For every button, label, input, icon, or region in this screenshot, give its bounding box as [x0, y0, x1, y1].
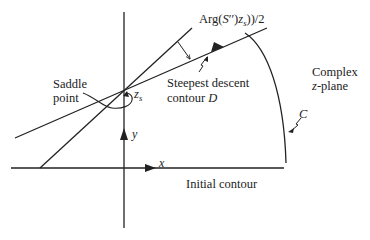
- contour-c-arrow-icon: [288, 128, 294, 133]
- saddle-label-line2: point: [53, 91, 79, 105]
- y-axis-label: y: [131, 127, 138, 141]
- steepest-label-line2: contour D: [167, 91, 217, 105]
- saddle-label-line1: Saddle: [53, 77, 87, 91]
- initial-contour-label: Initial contour: [186, 177, 258, 191]
- contour-diagram: Arg(S′′)zs))/2 Saddle point zs Steepest …: [0, 0, 370, 240]
- contour-c-label: C: [299, 107, 308, 121]
- steepest-descent-arrow-icon: [211, 42, 224, 52]
- contour-c-curve: [245, 33, 286, 163]
- y-axis-arrow-icon: [120, 128, 128, 140]
- complex-plane-label-line2: z-plane: [311, 79, 349, 93]
- steepest-label-line1: Steepest descent: [167, 76, 250, 90]
- arg-label: Arg(S′′)zs))/2: [199, 12, 265, 28]
- x-axis-arrow-icon: [145, 164, 156, 172]
- complex-plane-label-line1: Complex: [312, 65, 359, 79]
- steepest-pointer-arrow-icon: [204, 56, 208, 62]
- zs-label: zs: [133, 87, 143, 103]
- x-axis-label: x: [158, 156, 165, 170]
- angle-indicator-arrow: [178, 42, 190, 59]
